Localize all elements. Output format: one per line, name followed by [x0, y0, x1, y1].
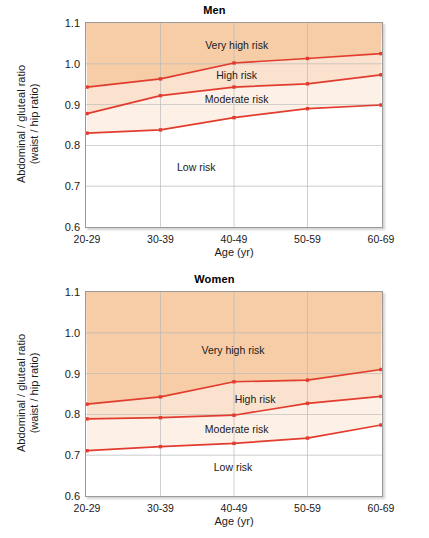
x-tick-label: 30-39	[147, 502, 174, 514]
x-axis-ticks-women: 20-2930-3940-4950-5960-69	[0, 269, 429, 538]
x-tick-label: 50-59	[294, 502, 321, 514]
x-tick-label: 40-49	[221, 233, 248, 245]
x-tick-label: 60-69	[368, 233, 395, 245]
chart-panel-women: Women Abdominal / gluteal ratio (waist /…	[0, 269, 429, 538]
x-axis-label-men: Age (yr)	[85, 246, 383, 258]
x-tick-label: 20-29	[74, 233, 101, 245]
x-axis-label-women: Age (yr)	[85, 515, 383, 527]
x-tick-label: 50-59	[294, 233, 321, 245]
x-tick-label: 20-29	[74, 502, 101, 514]
x-tick-label: 60-69	[368, 502, 395, 514]
figure-root: Men Abdominal / gluteal ratio (waist / h…	[0, 0, 429, 538]
x-tick-label: 30-39	[147, 233, 174, 245]
x-tick-label: 40-49	[221, 502, 248, 514]
x-axis-ticks-men: 20-2930-3940-4950-5960-69	[0, 0, 429, 269]
chart-panel-men: Men Abdominal / gluteal ratio (waist / h…	[0, 0, 429, 269]
